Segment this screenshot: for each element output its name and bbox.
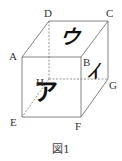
top-face-char: ウ <box>57 26 86 49</box>
vertex-label-d: D <box>44 7 52 19</box>
figure-caption: 図1 <box>52 143 70 156</box>
vertex-label-c: C <box>106 7 113 19</box>
vertex-label-e: E <box>10 116 17 128</box>
cube-diagram: ウ ア イ D C A B H G E F 図1 <box>0 0 122 161</box>
vertex-label-g: G <box>109 79 117 91</box>
vertex-label-a: A <box>9 50 17 62</box>
vertex-label-f: F <box>75 120 81 132</box>
vertex-label-b: B <box>83 56 90 68</box>
vertex-label-h: H <box>36 76 44 88</box>
